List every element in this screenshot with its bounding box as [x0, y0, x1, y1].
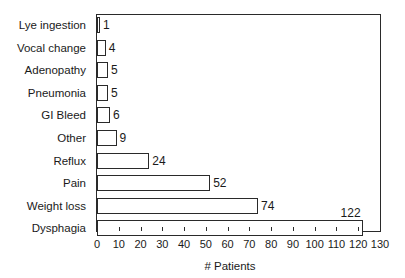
bar: [97, 130, 117, 146]
x-tick: [249, 227, 250, 231]
value-label: 5: [111, 63, 118, 77]
x-tick: [228, 227, 229, 231]
bar: [97, 62, 108, 78]
bar: [97, 17, 100, 33]
value-label: 74: [261, 199, 274, 213]
category-label: Other: [57, 131, 86, 145]
category-label: Reflux: [53, 154, 86, 168]
category-label: Dysphagia: [32, 221, 86, 235]
category-label: Pain: [63, 176, 86, 190]
x-tick: [97, 227, 98, 231]
x-tick: [380, 227, 381, 231]
value-label: 6: [113, 108, 120, 122]
x-tick: [184, 227, 185, 231]
value-label: 9: [120, 131, 127, 145]
x-tick: [315, 227, 316, 231]
x-tick: [206, 227, 207, 231]
category-label: Weight loss: [27, 199, 86, 213]
x-tick-label: 130: [365, 238, 395, 250]
x-tick: [293, 227, 294, 231]
value-label: 1: [103, 18, 110, 32]
x-tick: [162, 227, 163, 231]
value-label: 4: [109, 41, 116, 55]
x-tick: [336, 227, 337, 231]
bar: [97, 153, 149, 169]
bar: [97, 40, 106, 56]
category-label: Adenopathy: [25, 63, 86, 77]
bar: [97, 198, 258, 214]
x-axis-title: # Patients: [180, 259, 280, 273]
bar: [97, 85, 108, 101]
value-label: 122: [341, 206, 361, 220]
category-label: Pneumonia: [28, 86, 86, 100]
value-label: 24: [152, 154, 165, 168]
x-tick: [271, 227, 272, 231]
x-tick: [141, 227, 142, 231]
bar: [97, 175, 210, 191]
category-label: GI Bleed: [41, 108, 86, 122]
bar: [97, 220, 363, 236]
horizontal-bar-chart: Lye ingestion1Vocal change4Adenopathy5Pn…: [0, 0, 405, 278]
x-tick: [119, 227, 120, 231]
value-label: 5: [111, 86, 118, 100]
category-label: Vocal change: [17, 41, 86, 55]
value-label: 52: [213, 176, 226, 190]
x-tick: [358, 227, 359, 231]
bar: [97, 107, 110, 123]
category-label: Lye ingestion: [19, 18, 86, 32]
